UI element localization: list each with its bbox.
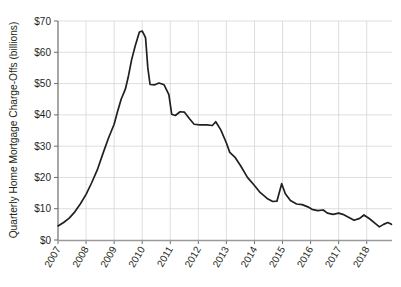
y-axis-tick-labels: $0$10$20$30$40$50$60$70 xyxy=(34,16,51,246)
x-tick-label: 2009 xyxy=(98,244,119,269)
y-axis-title: Quarterly Home Mortgage Charge-Offs (bil… xyxy=(8,22,19,239)
x-tick-label: 2007 xyxy=(42,244,63,269)
y-tick-label: $40 xyxy=(34,109,51,120)
y-tick-label: $70 xyxy=(34,16,51,27)
y-tick-label: $50 xyxy=(34,78,51,89)
y-tick-label: $10 xyxy=(34,203,51,214)
x-tick-label: 2010 xyxy=(126,244,147,269)
x-tick-label: 2008 xyxy=(70,244,91,269)
y-tick-label: $30 xyxy=(34,141,51,152)
y-tick-label: $0 xyxy=(40,235,52,246)
x-tick-label: 2015 xyxy=(267,244,288,269)
x-axis-tick-labels: 2007200820092010201120122013201420152016… xyxy=(42,244,372,269)
y-tick-label: $20 xyxy=(34,172,51,183)
x-tick-label: 2013 xyxy=(210,244,231,269)
y-tick-label: $60 xyxy=(34,47,51,58)
plot-background xyxy=(58,21,392,240)
x-tick-label: 2018 xyxy=(351,244,372,269)
chart-figure: $0$10$20$30$40$50$60$70 2007200820092010… xyxy=(0,0,401,287)
x-tick-label: 2017 xyxy=(323,244,344,269)
line-chart: $0$10$20$30$40$50$60$70 2007200820092010… xyxy=(0,0,401,287)
x-tick-label: 2012 xyxy=(182,244,203,269)
x-tick-label: 2014 xyxy=(239,244,260,269)
x-tick-label: 2011 xyxy=(155,244,175,269)
x-tick-label: 2016 xyxy=(295,244,316,269)
